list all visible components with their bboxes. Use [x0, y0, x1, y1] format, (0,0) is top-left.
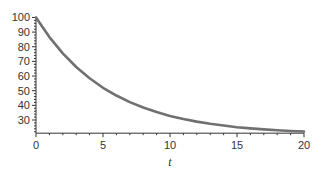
decay-curve: [36, 17, 304, 131]
y-tick-label: 80: [18, 41, 30, 53]
y-tick-label: 60: [18, 70, 30, 82]
x-axis-title: t: [168, 155, 172, 169]
chart: 30405060708090100 05101520 t: [0, 0, 323, 178]
x-tick-label: 0: [33, 139, 39, 151]
x-axis: 05101520: [33, 133, 310, 151]
y-axis: 30405060708090100: [12, 11, 36, 133]
x-tick-label: 10: [164, 139, 176, 151]
y-tick-label: 70: [18, 55, 30, 67]
x-tick-label: 20: [298, 139, 310, 151]
x-tick-label: 15: [231, 139, 243, 151]
y-tick-label: 50: [18, 85, 30, 97]
y-tick-label: 40: [18, 99, 30, 111]
y-tick-label: 90: [18, 26, 30, 38]
x-tick-label: 5: [100, 139, 106, 151]
y-tick-label: 30: [18, 114, 30, 126]
y-tick-label: 100: [12, 11, 30, 23]
